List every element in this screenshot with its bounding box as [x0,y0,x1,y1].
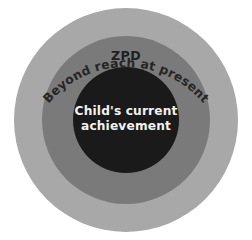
inner-circle-label-line1: Child's current [0,104,252,119]
zpd-diagram: Beyond reach at present ZPD Child's curr… [0,0,252,240]
inner-circle-label-line2: achievement [0,119,252,134]
middle-ring-label: ZPD [0,48,252,64]
inner-circle-label: Child's current achievement [0,104,252,135]
